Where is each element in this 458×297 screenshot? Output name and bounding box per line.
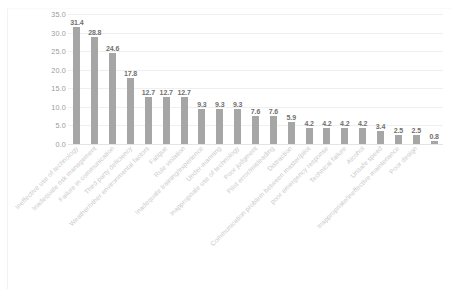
bar-slot: 31.4 <box>68 14 86 144</box>
x-axis-category-labels: Ineffective use of technologyInadequate … <box>68 147 443 287</box>
bar[interactable]: 0.8 <box>431 141 438 144</box>
y-axis-tick-labels: 35.030.025.020.015.010.05.00.0 <box>36 14 66 144</box>
y-axis-tick-0-0: 0.0 <box>55 140 66 149</box>
bar-value-label: 31.4 <box>70 19 83 26</box>
bar-value-label: 12.7 <box>177 89 190 96</box>
figure-border-left <box>7 8 8 289</box>
figure-border-top <box>7 8 451 9</box>
bar[interactable]: 31.4 <box>73 27 80 144</box>
x-axis-label-text: Ineffective use of technology <box>13 145 79 211</box>
bar-value-label: 24.6 <box>106 45 119 52</box>
y-axis-tick-5-0: 5.0 <box>55 121 66 130</box>
bar-slot: 12.7 <box>175 14 193 144</box>
y-axis-tick-30-0: 30.0 <box>51 28 66 37</box>
y-axis-tick-20-0: 20.0 <box>51 65 66 74</box>
y-axis-tick-25-0: 25.0 <box>51 47 66 56</box>
chart-figure: 35.030.025.020.015.010.05.00.0 31.428.82… <box>0 0 458 297</box>
y-axis-tick-15-0: 15.0 <box>51 84 66 93</box>
bar-value-label: 28.8 <box>88 29 101 36</box>
bar-value-label: 17.8 <box>124 70 137 77</box>
bar-value-label: 9.3 <box>197 101 206 108</box>
bar-value-label: 9.3 <box>215 101 224 108</box>
y-axis-tick-10-0: 10.0 <box>51 102 66 111</box>
y-axis-tick-35-0: 35.0 <box>51 10 66 19</box>
